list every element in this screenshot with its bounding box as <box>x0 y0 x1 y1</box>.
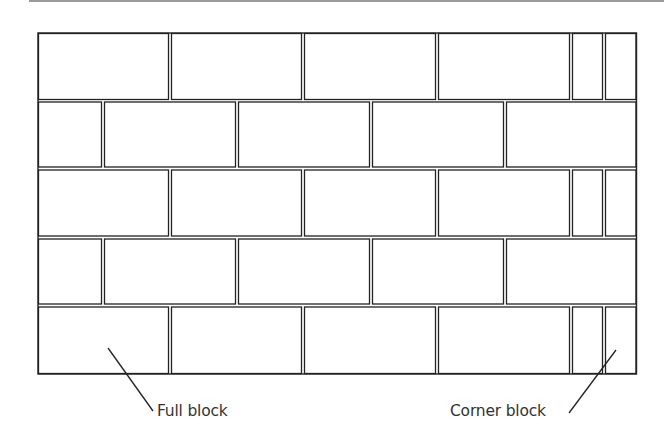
corner-block <box>573 170 603 236</box>
full-block <box>172 307 302 374</box>
full-block <box>439 170 570 236</box>
full-block <box>305 34 436 100</box>
corner-block <box>606 170 637 236</box>
full-block <box>105 102 236 167</box>
full-block <box>305 170 436 236</box>
corner-block-label: Corner block <box>450 402 546 420</box>
full-block <box>373 239 504 304</box>
block-wall-diagram <box>0 0 664 446</box>
full-block <box>239 102 370 167</box>
full-block-label: Full block <box>157 402 228 420</box>
full-block <box>239 239 370 304</box>
half-block <box>39 239 102 304</box>
full-block <box>507 102 637 167</box>
course-row-3 <box>39 170 637 236</box>
course-row-4 <box>39 239 637 304</box>
corner-block <box>606 34 637 100</box>
full-block <box>172 34 302 100</box>
full-block <box>105 239 236 304</box>
corner-block <box>606 307 637 374</box>
full-block <box>172 170 302 236</box>
corner-block <box>573 34 603 100</box>
full-block <box>39 307 169 374</box>
full-block <box>39 34 169 100</box>
full-block <box>305 307 436 374</box>
full-block <box>439 34 570 100</box>
course-row-5 <box>39 307 637 374</box>
full-block <box>439 307 570 374</box>
course-row-2 <box>39 102 637 167</box>
corner-block <box>573 307 603 374</box>
full-block <box>507 239 637 304</box>
full-block <box>39 170 169 236</box>
course-row-1 <box>39 34 637 100</box>
half-block <box>39 102 102 167</box>
full-block <box>373 102 504 167</box>
